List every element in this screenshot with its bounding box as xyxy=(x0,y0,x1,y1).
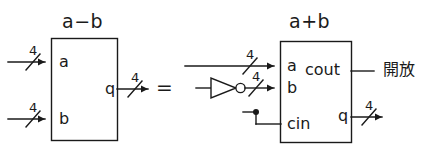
equality-symbol: = xyxy=(156,77,173,97)
left-port-label-b: b xyxy=(59,111,69,127)
left-output-q-bus-width: 4 xyxy=(131,71,139,84)
right-output-q-bus-width: 4 xyxy=(365,99,373,112)
right-input-a-arrowhead xyxy=(267,63,274,70)
left-input-a-bus-width: 4 xyxy=(29,44,37,57)
left-input-b-arrowhead xyxy=(38,116,45,123)
right-port-label-q: q xyxy=(338,108,348,124)
right-port-label-cout: cout xyxy=(305,62,340,78)
right-port-label-b: b xyxy=(287,80,297,96)
right-block-title: a+b xyxy=(289,12,330,31)
inverter-bubble xyxy=(236,83,245,92)
cout-open-annotation: 開放 xyxy=(383,62,415,78)
left-port-label-q: q xyxy=(105,81,115,97)
right-input-a-bus-width: 4 xyxy=(246,48,254,61)
left-input-b-bus-width: 4 xyxy=(29,101,37,114)
left-port-label-a: a xyxy=(59,54,69,70)
right-port-label-cin: cin xyxy=(287,116,310,132)
left-input-a-arrowhead xyxy=(38,59,45,66)
left-output-q-arrowhead xyxy=(141,86,148,93)
right-output-q-arrowhead xyxy=(375,114,382,121)
right-input-b-bus-width: 4 xyxy=(252,70,260,83)
right-port-label-a: a xyxy=(287,58,297,74)
circuit-diagram: a−b a b q 4 4 4 = a+b a b cin cout q 4 4… xyxy=(0,0,429,153)
inverter-triangle xyxy=(211,78,236,98)
right-input-b-arrowhead xyxy=(267,85,274,92)
left-block-title: a−b xyxy=(62,12,103,31)
